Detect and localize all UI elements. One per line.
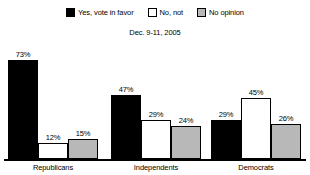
bar-democrats-no-opinion: 26% bbox=[271, 44, 301, 159]
legend-label-no-not: No, not bbox=[160, 8, 183, 17]
bar-value-label: 73% bbox=[16, 50, 31, 59]
bar-democrats-yes-vote-in-favor: 29% bbox=[211, 44, 241, 159]
plot-area: 73% 12% 15% 47% bbox=[8, 44, 304, 159]
chart-subtitle: Dec. 9-11, 2005 bbox=[0, 28, 310, 38]
white-outlined-square-icon bbox=[148, 8, 157, 17]
category-label-republicans: Republicans bbox=[8, 163, 98, 173]
bar-republicans-yes-vote-in-favor: 73% bbox=[8, 44, 38, 159]
bar-rect bbox=[241, 98, 271, 159]
bar-rect bbox=[38, 143, 68, 159]
bar-rect bbox=[8, 60, 38, 159]
bar-value-label: 12% bbox=[46, 133, 61, 142]
bar-republicans-no-not: 12% bbox=[38, 44, 68, 159]
bar-democrats-no-not: 45% bbox=[241, 44, 271, 159]
legend-item-yes-vote-in-favor: Yes, vote in favor bbox=[66, 8, 133, 17]
bar-value-label: 47% bbox=[119, 85, 134, 94]
bar-value-label: 29% bbox=[219, 110, 234, 119]
bar-republicans-no-opinion: 15% bbox=[68, 44, 98, 159]
x-axis-line bbox=[4, 159, 306, 161]
bar-rect bbox=[211, 120, 241, 159]
bar-rect bbox=[141, 120, 171, 159]
bar-value-label: 26% bbox=[279, 114, 294, 123]
category-label-democrats: Democrats bbox=[211, 163, 301, 173]
legend-label-no-opinion: No opinion bbox=[209, 8, 244, 17]
bar-rect bbox=[68, 139, 98, 159]
bar-value-label: 24% bbox=[179, 116, 194, 125]
legend-label-yes-vote-in-favor: Yes, vote in favor bbox=[78, 8, 133, 17]
gray-filled-square-icon bbox=[197, 8, 206, 17]
bar-independents-no-not: 29% bbox=[141, 44, 171, 159]
legend-item-no-not: No, not bbox=[148, 8, 183, 17]
bar-independents-yes-vote-in-favor: 47% bbox=[111, 44, 141, 159]
bar-independents-no-opinion: 24% bbox=[171, 44, 201, 159]
legend-item-no-opinion: No opinion bbox=[197, 8, 244, 17]
bar-value-label: 45% bbox=[249, 88, 264, 97]
bar-value-label: 15% bbox=[76, 129, 91, 138]
black-filled-square-icon bbox=[66, 8, 75, 17]
bar-chart: Yes, vote in favor No, not No opinion De… bbox=[0, 0, 310, 175]
bar-rect bbox=[271, 124, 301, 159]
bar-value-label: 29% bbox=[149, 110, 164, 119]
chart-legend: Yes, vote in favor No, not No opinion bbox=[0, 8, 310, 17]
bar-rect bbox=[171, 126, 201, 159]
bar-rect bbox=[111, 95, 141, 159]
category-label-independents: Independents bbox=[111, 163, 201, 173]
